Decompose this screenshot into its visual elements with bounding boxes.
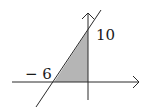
graph-line [36, 10, 101, 107]
x-intercept-label: − 6 [25, 65, 52, 83]
coordinate-graph: 10 − 6 [0, 0, 154, 112]
y-intercept-label: 10 [96, 26, 115, 44]
